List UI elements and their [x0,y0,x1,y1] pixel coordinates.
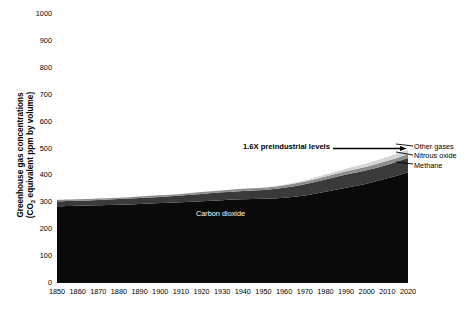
x-axis-tick-labels: 1850186018701880189019001910192019301940… [0,288,471,302]
series-label-carbon-dioxide: Carbon dioxide [196,209,245,218]
y-axis-tick-label: 400 [26,171,52,178]
area-series-carbon-dioxide [57,172,408,283]
y-axis-tick-label: 500 [26,145,52,152]
right-series-labels: Other gases Nitrous oxide Methane [414,142,471,170]
y-axis-tick-label: 200 [26,225,52,232]
y-axis-tick-label: 0 [26,279,52,286]
y-axis-tick-label: 900 [26,37,52,44]
series-label-nitrous-oxide: Nitrous oxide [414,151,471,160]
x-axis-tick-label: 2020 [393,288,423,295]
y-axis-tick-label: 800 [26,64,52,71]
series-label-other-gases: Other gases [414,142,471,151]
y-axis-tick-label: 1000 [26,10,52,17]
y-axis-tick-labels: 01002003004005006007008009001000 [24,0,52,310]
y-axis-tick-label: 100 [26,252,52,259]
annotation-preindustrial-levels: 1.6X preindustrial levels [243,142,330,151]
right-label-leader-lines [396,140,416,174]
greenhouse-gas-concentration-chart: Greenhouse gas concentrations (CO2 equiv… [0,0,471,310]
y-axis-tick-label: 300 [26,198,52,205]
y-axis-tick-label: 600 [26,118,52,125]
series-label-methane: Methane [414,161,471,170]
y-axis-tick-label: 700 [26,91,52,98]
